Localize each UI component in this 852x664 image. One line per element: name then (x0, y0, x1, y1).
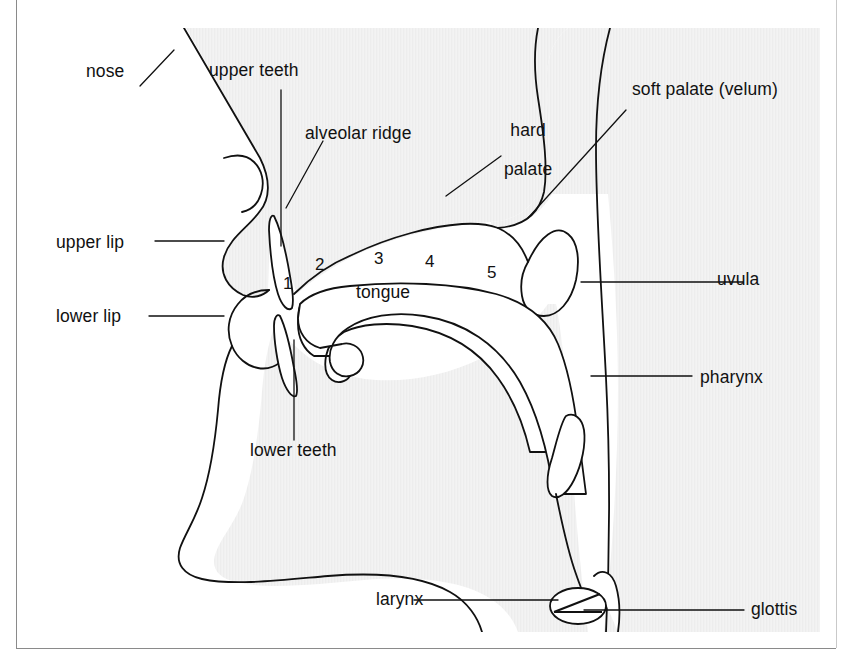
tongue-point-4: 4 (425, 252, 434, 272)
label-tongue: tongue (356, 283, 410, 303)
vocal-tract-diagram (28, 28, 820, 632)
label-hard-palate: hard palate (494, 101, 552, 179)
label-lower-teeth: lower teeth (250, 441, 337, 461)
label-hard-palate-line2: palate (504, 159, 552, 179)
page-rule-left (16, 0, 17, 648)
label-hard-palate-line1: hard (510, 120, 545, 140)
label-pharynx: pharynx (700, 368, 763, 388)
page-rule-bottom (16, 648, 836, 649)
page-rule-right (836, 0, 837, 648)
label-uvula: uvula (717, 270, 759, 290)
label-lower-lip: lower lip (56, 307, 121, 327)
label-soft-palate-velum: soft palate (velum) (632, 80, 778, 100)
label-nose: nose (86, 62, 124, 82)
tongue-point-5: 5 (487, 263, 496, 283)
figure-caption-partial (80, 0, 780, 4)
label-alveolar-ridge: alveolar ridge (305, 124, 411, 144)
tongue-point-1: 1 (283, 274, 292, 294)
label-upper-lip: upper lip (56, 233, 124, 253)
label-larynx: larynx (376, 590, 423, 610)
label-glottis: glottis (751, 600, 797, 620)
glottis-shape (550, 588, 606, 624)
final-render (28, 28, 820, 632)
tongue-point-2: 2 (315, 255, 324, 275)
label-upper-teeth: upper teeth (209, 61, 299, 81)
tongue-point-3: 3 (374, 249, 383, 269)
